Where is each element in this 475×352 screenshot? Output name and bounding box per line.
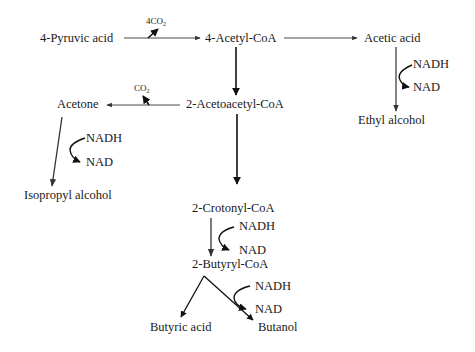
node-butanol: Butanol [258, 320, 298, 334]
node-crotonyl-coa: 2-Crotonyl-CoA [192, 201, 275, 215]
node-butyryl-coa: 2-Butyryl-CoA [192, 257, 268, 271]
node-acetone: Acetone [57, 97, 99, 111]
cofactor-curve-arrow-icon [70, 138, 85, 162]
node-butyric-acid: Butyric acid [150, 320, 212, 334]
cofactor-curve-arrow-icon [399, 65, 412, 87]
arrow-butyrylcoa-to-butanol [204, 276, 253, 320]
node-ethyl-alcohol: Ethyl alcohol [358, 113, 426, 127]
cofactor-nadh: NADH [255, 279, 291, 293]
node-acetoacetyl-coa: 2-Acetoacetyl-CoA [186, 97, 284, 111]
byproduct-co2: CO2 [134, 83, 150, 94]
cofactor-nad: NAD [239, 243, 266, 257]
cofactor-nadh: NADH [413, 57, 449, 71]
co2-release-arrow-icon [143, 96, 149, 105]
cofactor-nad: NAD [255, 302, 282, 316]
node-isopropyl-alcohol: Isopropyl alcohol [24, 188, 112, 202]
arrow-acetone-to-isopropyl [52, 117, 62, 186]
cofactor-nad: NAD [413, 80, 440, 94]
cofactor-nad: NAD [86, 155, 113, 169]
node-pyruvic-acid: 4-Pyruvic acid [40, 31, 114, 45]
co2-release-arrow-icon [148, 29, 158, 38]
cofactor-nadh: NADH [239, 219, 275, 233]
fermentation-pathway-diagram: 4-Pyruvic acid 4CO2 4-Acetyl-CoA Acetic … [0, 0, 475, 352]
node-acetic-acid: Acetic acid [364, 31, 421, 45]
cofactor-curve-arrow-icon [219, 227, 234, 250]
byproduct-4co2: 4CO2 [146, 16, 166, 27]
arrow-butyrylcoa-to-butyric [181, 276, 204, 317]
node-acetyl-coa: 4-Acetyl-CoA [205, 31, 277, 45]
cofactor-nadh: NADH [86, 131, 122, 145]
